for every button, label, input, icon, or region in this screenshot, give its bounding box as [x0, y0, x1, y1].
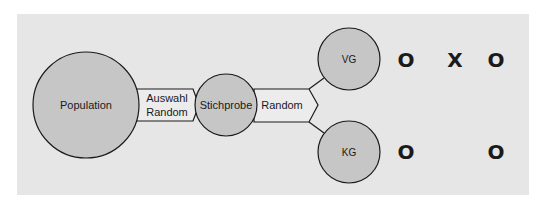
treatment-group-label: VG — [342, 54, 357, 65]
assignment-arrow-label: Random — [261, 99, 303, 111]
kg-posttest-symbol: O — [487, 140, 504, 164]
control-group-node: KG — [318, 121, 380, 183]
sample-node: Stichprobe — [195, 74, 257, 136]
vg-observation-row: O X O — [397, 48, 504, 72]
sample-label: Stichprobe — [200, 99, 253, 111]
treatment-group-node: VG — [318, 28, 380, 90]
vg-treatment-symbol: X — [447, 48, 463, 72]
population-label: Population — [60, 99, 112, 111]
control-group-label: KG — [342, 147, 357, 158]
vg-posttest-symbol: O — [487, 48, 504, 72]
diagram-canvas: Auswahl Random Random Population Stichpr… — [0, 0, 545, 207]
selection-arrow-label-line1: Auswahl — [146, 92, 188, 104]
selection-arrow: Auswahl Random — [136, 89, 199, 121]
kg-pretest-symbol: O — [397, 140, 414, 164]
vg-pretest-symbol: O — [397, 48, 414, 72]
assignment-arrow: Random — [254, 89, 318, 122]
selection-arrow-label-line2: Random — [146, 106, 188, 118]
population-node: Population — [33, 52, 139, 158]
